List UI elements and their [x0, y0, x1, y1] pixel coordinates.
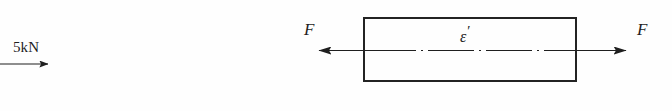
- arrow-right-icon: [0, 56, 52, 72]
- force-label-left: F: [304, 21, 314, 38]
- load-label-5kn: 5kN: [13, 40, 39, 55]
- specimen-body-rectangle: [363, 17, 577, 82]
- figure-canvas: 5kN ε′: [0, 0, 672, 111]
- strain-prime-symbol: ′: [466, 23, 469, 39]
- force-label-right: F: [637, 21, 647, 38]
- strain-label: ε′: [460, 24, 470, 45]
